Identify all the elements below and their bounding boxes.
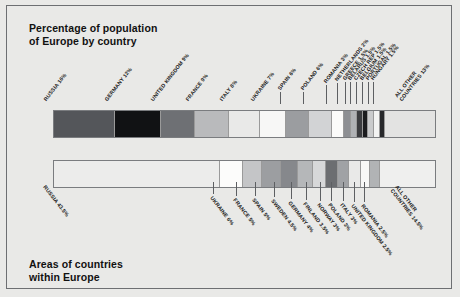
page-title-population: Percentage of population of Europe by co… [29, 22, 157, 47]
bar-segment [220, 161, 243, 187]
bar-segment [281, 161, 298, 187]
bar-segment [349, 161, 360, 187]
poster-frame: Percentage of population of Europe by co… [6, 5, 452, 289]
bar-segment [338, 161, 349, 187]
bar-segment [229, 111, 259, 137]
bar-segment [380, 161, 435, 187]
bar-segment [385, 111, 435, 137]
bar-segment [115, 111, 161, 137]
bar-segment [262, 161, 281, 187]
bar-segment [326, 161, 337, 187]
bar-segment [54, 111, 115, 137]
bar-segment [243, 161, 262, 187]
page-title-area: Areas of countries within Europe [29, 258, 123, 283]
bar-segment [298, 161, 313, 187]
bar-segment [309, 111, 332, 137]
bar-segment [361, 161, 371, 187]
bar-segment [260, 111, 287, 137]
bar-segment [161, 111, 195, 137]
bar-segment [344, 111, 352, 137]
bar-segment [195, 111, 229, 137]
bar-segment [313, 161, 326, 187]
bar-segment [332, 111, 343, 137]
stacked-bar-population [53, 110, 436, 138]
bar-segment [54, 161, 220, 187]
bar-segment [286, 111, 309, 137]
bar-segment [370, 161, 380, 187]
stacked-bar-area [53, 160, 436, 188]
